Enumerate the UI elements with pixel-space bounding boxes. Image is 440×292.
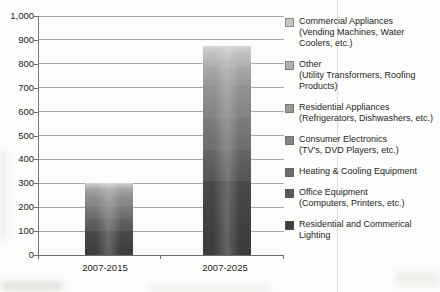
legend-label-name: Other bbox=[299, 59, 438, 70]
scan-artifact bbox=[2, 282, 62, 290]
bar-segment bbox=[85, 218, 133, 231]
legend-swatch bbox=[285, 104, 294, 113]
x-axis-label: 2007-2015 bbox=[60, 262, 150, 273]
bar-2007-2015 bbox=[85, 183, 133, 255]
x-axis-tick bbox=[160, 255, 161, 259]
y-axis-tick bbox=[34, 88, 38, 89]
legend-label-name: Residential and Commerical Lighting bbox=[299, 219, 438, 241]
legend-label: Heating & Cooling Equipment bbox=[299, 166, 417, 177]
chart-legend: Commercial Appliances(Vending Machines, … bbox=[285, 16, 438, 251]
legend-label-detail: (Vending Machines, Water Coolers, etc.) bbox=[299, 27, 438, 49]
legend-label-detail: (Computers, Printers, etc.) bbox=[299, 198, 405, 209]
scan-artifact bbox=[0, 150, 6, 240]
y-axis-label: 900 bbox=[0, 35, 34, 45]
legend-label: Consumer Electronics(TV's, DVD Players, … bbox=[299, 134, 399, 156]
scan-fold-line bbox=[337, 0, 338, 292]
legend-item: Commercial Appliances(Vending Machines, … bbox=[285, 16, 438, 49]
bar-segment bbox=[85, 231, 133, 255]
gridline bbox=[39, 39, 284, 40]
x-axis-tick bbox=[38, 255, 39, 259]
bar-segment bbox=[203, 118, 251, 150]
legend-swatch bbox=[285, 168, 294, 177]
legend-label-name: Heating & Cooling Equipment bbox=[299, 166, 417, 177]
y-axis-tick bbox=[34, 112, 38, 113]
legend-label: Commercial Appliances(Vending Machines, … bbox=[299, 16, 438, 49]
legend-item: Other(Utility Transformers, Roofing Prod… bbox=[285, 59, 438, 92]
legend-label-name: Residential Appliances bbox=[299, 102, 433, 113]
y-axis-label: 700 bbox=[0, 83, 34, 93]
legend-swatch bbox=[285, 221, 294, 230]
scan-artifact bbox=[396, 272, 440, 286]
y-axis-label: 600 bbox=[0, 107, 34, 117]
legend-item: Consumer Electronics(TV's, DVD Players, … bbox=[285, 134, 438, 156]
legend-swatch bbox=[285, 136, 294, 145]
bar-segment bbox=[85, 206, 133, 218]
legend-label: Residential Appliances(Refrigerators, Di… bbox=[299, 102, 433, 124]
legend-label-name: Commercial Appliances bbox=[299, 16, 438, 27]
y-axis-label: 0 bbox=[0, 250, 34, 260]
y-axis-label: 1,000 bbox=[0, 11, 34, 21]
plot-area bbox=[38, 16, 284, 256]
scan-artifact bbox=[150, 286, 270, 292]
y-axis-label: 800 bbox=[0, 59, 34, 69]
legend-label-detail: (Utility Transformers, Roofing Products) bbox=[299, 70, 438, 92]
legend-label-detail: (TV's, DVD Players, etc.) bbox=[299, 145, 399, 156]
bar-2007-2025 bbox=[203, 46, 251, 255]
y-axis-tick bbox=[34, 159, 38, 160]
bar-segment bbox=[203, 66, 251, 85]
x-axis-tick bbox=[283, 255, 284, 259]
legend-item: Office Equipment(Computers, Printers, et… bbox=[285, 187, 438, 209]
bar-segment bbox=[203, 52, 251, 66]
legend-swatch bbox=[285, 18, 294, 27]
y-axis-tick bbox=[34, 64, 38, 65]
legend-label: Other(Utility Transformers, Roofing Prod… bbox=[299, 59, 438, 92]
legend-item: Heating & Cooling Equipment bbox=[285, 166, 438, 177]
bar-segment bbox=[85, 194, 133, 206]
bar-segment bbox=[203, 181, 251, 255]
y-axis-tick bbox=[34, 231, 38, 232]
bar-segment bbox=[203, 150, 251, 181]
legend-item: Residential Appliances(Refrigerators, Di… bbox=[285, 102, 438, 124]
y-axis-tick bbox=[34, 40, 38, 41]
bar-segment bbox=[203, 85, 251, 117]
x-axis-label: 2007-2025 bbox=[180, 262, 270, 273]
legend-label-name: Consumer Electronics bbox=[299, 134, 399, 145]
legend-label: Office Equipment(Computers, Printers, et… bbox=[299, 187, 405, 209]
y-axis-tick bbox=[34, 207, 38, 208]
stacked-bar-chart: 01002003004005006007008009001,000 2007-2… bbox=[0, 0, 440, 292]
legend-swatch bbox=[285, 189, 294, 198]
legend-swatch bbox=[285, 61, 294, 70]
legend-label-detail: (Refrigerators, Dishwashers, etc.) bbox=[299, 113, 433, 124]
legend-item: Residential and Commerical Lighting bbox=[285, 219, 438, 241]
y-axis-tick bbox=[34, 183, 38, 184]
y-axis-tick bbox=[34, 16, 38, 17]
y-axis-label: 500 bbox=[0, 131, 34, 141]
gridline bbox=[39, 16, 284, 17]
legend-label-name: Office Equipment bbox=[299, 187, 405, 198]
y-axis-tick bbox=[34, 136, 38, 137]
legend-label: Residential and Commerical Lighting bbox=[299, 219, 438, 241]
